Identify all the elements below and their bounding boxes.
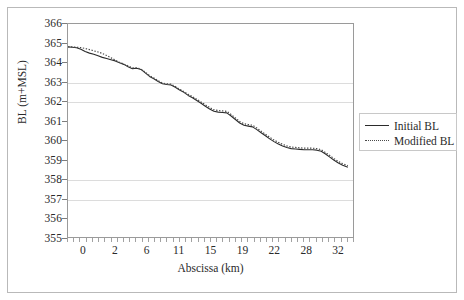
x-axis-minor-tick [185,238,186,242]
x-axis-minor-tick [73,238,74,242]
x-axis-minor-tick [129,238,130,242]
x-axis-minor-tick [260,238,261,242]
legend-item-label: Modified BL [394,135,454,147]
x-axis-minor-tick [291,238,292,242]
legend-item: Initial BL [364,118,453,133]
x-axis-minor-tick [297,238,298,242]
x-axis-minor-tick [353,238,354,242]
series-line [68,47,348,166]
x-axis-minor-tick [154,238,155,242]
x-axis-minor-tick [241,238,242,242]
x-axis-minor-tick [173,238,174,242]
x-axis-tick-label: 19 [237,244,249,256]
x-axis-tick-label: 28 [300,244,312,256]
x-axis-minor-tick [222,238,223,242]
x-axis-minor-tick [328,238,329,242]
dotted-line-icon [364,137,390,145]
x-axis-minor-tick [303,238,304,242]
x-axis-tick-label: 0 [80,244,86,256]
x-axis-minor-tick [247,238,248,242]
x-axis-minor-tick [123,238,124,242]
x-axis-tick-label: 11 [173,244,184,256]
x-axis-minor-tick [210,238,211,242]
solid-line-icon [364,122,390,130]
x-axis-minor-tick [92,238,93,242]
x-axis-minor-tick [148,238,149,242]
x-axis-minor-tick [79,238,80,242]
x-axis-tick-label: 2 [112,244,118,256]
x-axis-minor-tick [111,238,112,242]
x-axis-minor-tick [204,238,205,242]
x-axis-minor-tick [198,238,199,242]
x-axis-minor-tick [322,238,323,242]
x-axis-minor-tick [278,238,279,242]
x-axis-minor-tick [142,238,143,242]
y-axis-title: BL (m+MSL) [16,32,28,152]
x-axis-minor-tick [179,238,180,242]
x-axis-minor-tick [135,238,136,242]
x-axis-minor-tick [160,238,161,242]
x-axis-minor-tick [254,238,255,242]
plot-area [67,23,354,238]
x-axis-tick-label: 32 [332,244,344,256]
x-axis-title: Abscissa (km) [67,262,354,274]
x-axis-minor-tick [98,238,99,242]
x-axis-tick-label: 6 [144,244,150,256]
series-lines [68,24,353,238]
y-axis-ticks [60,23,67,238]
x-axis-minor-ticks [67,238,354,243]
chart-legend: Initial BLModified BL [359,113,457,151]
x-axis-minor-tick [272,238,273,242]
x-axis-minor-tick [117,238,118,242]
x-axis-minor-tick [341,238,342,242]
legend-item-label: Initial BL [394,120,439,132]
x-axis-minor-tick [266,238,267,242]
chart-figure: BL (m+MSL) 36636536436336236136035935835… [7,7,457,293]
x-axis-minor-tick [216,238,217,242]
x-axis-minor-tick [229,238,230,242]
x-axis-minor-tick [86,238,87,242]
x-axis-tick-label: 22 [269,244,281,256]
x-axis-minor-tick [191,238,192,242]
x-axis-minor-tick [285,238,286,242]
legend-item: Modified BL [364,133,453,148]
x-axis-minor-tick [235,238,236,242]
x-axis-minor-tick [334,238,335,242]
x-axis-tick-labels: 026111519222832 [67,244,354,262]
x-axis-minor-tick [347,238,348,242]
x-axis-minor-tick [309,238,310,242]
x-axis-minor-tick [316,238,317,242]
x-axis-minor-tick [104,238,105,242]
x-axis-minor-tick [166,238,167,242]
x-axis-minor-tick [67,238,68,242]
x-axis-tick-label: 15 [205,244,217,256]
